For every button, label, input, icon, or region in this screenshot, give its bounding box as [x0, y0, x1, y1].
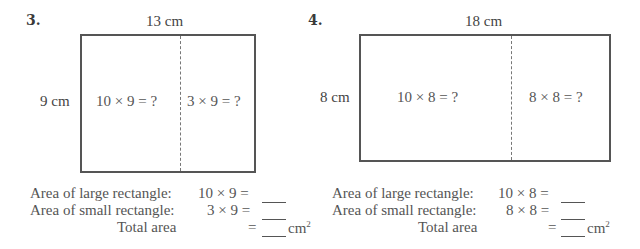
small-area-blank[interactable] — [262, 207, 286, 220]
height-label: 9 cm — [40, 93, 70, 110]
small-area-label: Area of small rectangle: — [332, 202, 477, 219]
small-area-blank[interactable] — [561, 207, 585, 220]
large-area-expression: 10 × 9 = — [198, 185, 249, 202]
dashed-divider — [180, 36, 181, 171]
large-part-expression: 10 × 9 = ? — [96, 93, 157, 110]
large-area-label: Area of large rectangle: — [30, 185, 172, 202]
small-area-expression: 3 × 9 = — [207, 202, 250, 219]
problem-number: 3. — [26, 12, 41, 28]
total-area-label: Total area — [117, 219, 176, 236]
height-label: 8 cm — [320, 89, 350, 106]
problem-number: 4. — [308, 12, 323, 28]
large-area-blank[interactable] — [262, 190, 286, 203]
total-area-unit: cm2 — [288, 219, 311, 237]
total-area-blank[interactable] — [262, 224, 286, 237]
dashed-divider — [511, 36, 512, 160]
total-area-label: Total area — [418, 219, 477, 236]
small-part-expression: 8 × 8 = ? — [529, 89, 583, 106]
large-area-expression: 10 × 8 = — [498, 185, 549, 202]
large-part-expression: 10 × 8 = ? — [397, 89, 458, 106]
width-label: 18 cm — [465, 13, 502, 30]
small-area-expression: 8 × 8 = — [506, 202, 549, 219]
large-area-label: Area of large rectangle: — [332, 185, 474, 202]
total-area-equals: = — [248, 219, 256, 236]
total-area-blank[interactable] — [561, 224, 585, 237]
small-area-label: Area of small rectangle: — [30, 202, 175, 219]
large-area-blank[interactable] — [561, 190, 585, 203]
width-label: 13 cm — [146, 13, 183, 30]
total-area-unit: cm2 — [587, 219, 610, 237]
small-part-expression: 3 × 9 = ? — [187, 93, 241, 110]
total-area-equals: = — [548, 219, 556, 236]
